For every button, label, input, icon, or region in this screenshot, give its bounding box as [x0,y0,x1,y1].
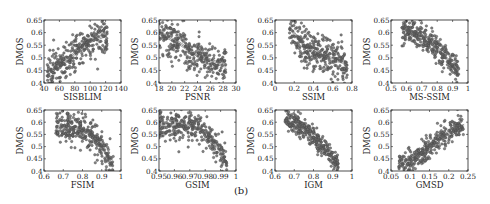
subplot-fsim: 0.60.70.80.910.40.450.50.550.60.65FSIMDM… [15,102,123,190]
y-tick-label: 0.6 [31,28,43,37]
x-tick-label: 0.1 [405,172,416,181]
y-tick-label: 0.4 [378,167,390,176]
y-tick-label: 0.6 [378,118,390,127]
x-tick-label: 1 [466,84,471,93]
y-tick-label: 0.55 [257,41,273,50]
scatter-points [401,10,460,83]
y-tick-label: 0.4 [262,167,274,176]
y-tick-label: 0.4 [146,167,158,176]
x-axis-label: GSIM [185,180,210,190]
scatter-points [288,13,348,87]
y-tick-label: 0.65 [257,16,273,25]
y-tick-label: 0.45 [373,154,389,163]
y-tick-label: 0.6 [262,118,274,127]
x-tick-label: 20 [167,84,177,93]
y-tick-label: 0.65 [257,106,273,115]
y-axis-label: DMOS [130,37,140,65]
y-tick-label: 0.45 [141,66,157,75]
x-axis-label: MS-SSIM [409,92,450,102]
x-axis-label: SISBLIM [63,92,102,102]
y-axis-label: DMOS [246,126,256,154]
y-tick-label: 0.6 [378,28,390,37]
y-tick-label: 0.5 [31,142,43,151]
y-tick-label: 0.55 [373,41,389,50]
x-tick-label: 28 [219,84,229,93]
y-tick-label: 0.45 [141,154,157,163]
x-tick-label: 0.9 [96,172,108,181]
y-tick-label: 0.4 [378,79,390,88]
y-axis-label: DMOS [15,37,25,65]
subplot-gmsd: 0.050.10.150.20.250.40.450.50.550.60.65G… [362,106,476,191]
y-tick-label: 0.4 [262,79,274,88]
x-tick-label: 0.9 [327,172,339,181]
y-tick-label: 0.55 [373,130,389,139]
y-tick-label: 0.55 [26,130,42,139]
subplot-ssim: 00.20.40.60.80.40.450.50.550.60.65SSIMDM… [246,13,358,102]
x-tick-label: 140 [114,84,128,93]
x-tick-label: 0.6 [327,84,339,93]
y-tick-label: 0.6 [31,118,43,127]
x-tick-label: 30 [231,84,241,93]
panel-label: (b) [234,185,248,196]
scatter-figure: 4060801001201400.40.450.50.550.60.65SISB… [0,0,490,204]
y-tick-label: 0.5 [378,142,390,151]
y-axis-label: DMOS [362,126,372,154]
y-tick-label: 0.5 [146,53,158,62]
scatter-points [46,19,108,91]
y-tick-label: 0.6 [262,28,274,37]
y-tick-label: 0.5 [31,53,43,62]
scatter-points [398,108,465,177]
y-axis-label: DMOS [15,126,25,154]
y-tick-label: 0.45 [26,66,42,75]
y-tick-label: 0.55 [141,41,157,50]
y-tick-label: 0.5 [146,142,158,151]
x-tick-label: 0.7 [58,172,70,181]
y-tick-label: 0.45 [257,66,273,75]
x-tick-label: 0.2 [443,172,454,181]
subplot-grid: 4060801001201400.40.450.50.550.60.65SISB… [15,10,476,190]
x-tick-label: 0.7 [289,172,301,181]
y-tick-label: 0.5 [378,53,390,62]
subplot-igm: 0.60.70.80.910.40.450.50.550.60.65IGMDMO… [246,106,354,191]
y-tick-label: 0.5 [262,142,274,151]
x-axis-label: FSIM [71,180,95,190]
y-tick-label: 0.65 [26,106,42,115]
y-tick-label: 0.45 [257,154,273,163]
y-tick-label: 0.55 [141,130,157,139]
y-tick-label: 0.45 [373,66,389,75]
scatter-points [158,107,228,173]
subplot-ms-ssim: 0.50.60.70.80.910.40.450.50.550.60.65MS-… [362,10,470,102]
scatter-points [55,102,115,178]
y-tick-label: 0.5 [262,53,274,62]
y-tick-label: 0.65 [373,106,389,115]
x-tick-label: 1 [234,172,239,181]
x-tick-label: 1 [350,172,355,181]
x-axis-label: GMSD [416,180,444,190]
x-axis-label: PSNR [185,92,211,102]
subplot-gsim: 0.950.960.970.980.9910.40.450.50.550.60.… [130,106,238,191]
y-tick-label: 0.4 [31,167,43,176]
x-tick-label: 1 [119,172,124,181]
x-tick-label: 0.2 [289,84,300,93]
y-axis-label: DMOS [362,37,372,65]
x-tick-label: 0.96 [166,172,182,181]
y-tick-label: 0.65 [26,16,42,25]
x-tick-label: 0.8 [346,84,358,93]
x-axis-label: IGM [304,180,323,190]
y-tick-label: 0.45 [26,154,42,163]
y-tick-label: 0.65 [373,16,389,25]
y-tick-label: 0.65 [141,16,157,25]
y-tick-label: 0.55 [26,41,42,50]
subplot-psnr: 182022242628300.40.450.50.550.60.65PSNRD… [130,15,241,102]
scatter-points [284,110,339,176]
y-tick-label: 0.4 [146,79,158,88]
y-tick-label: 0.65 [141,106,157,115]
y-tick-label: 0.55 [257,130,273,139]
x-axis-label: SSIM [302,92,326,102]
y-tick-label: 0.4 [31,79,43,88]
y-tick-label: 0.6 [146,118,158,127]
y-tick-label: 0.6 [146,28,158,37]
x-tick-label: 0.25 [460,172,476,181]
y-axis-label: DMOS [246,37,256,65]
y-axis-label: DMOS [130,126,140,154]
